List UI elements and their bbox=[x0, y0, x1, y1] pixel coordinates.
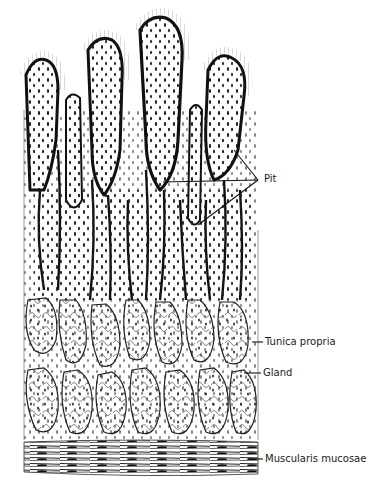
label-gland: Gland bbox=[263, 367, 292, 379]
label-pit: Pit bbox=[264, 173, 277, 185]
label-tunica-propria: Tunica propria bbox=[265, 336, 336, 348]
label-muscularis-mucosae: Muscularis mucosae bbox=[265, 453, 366, 465]
gland-neck-nuclei bbox=[34, 190, 254, 300]
histology-illustration bbox=[0, 0, 376, 490]
muscularis-mucosae-band bbox=[24, 440, 258, 476]
